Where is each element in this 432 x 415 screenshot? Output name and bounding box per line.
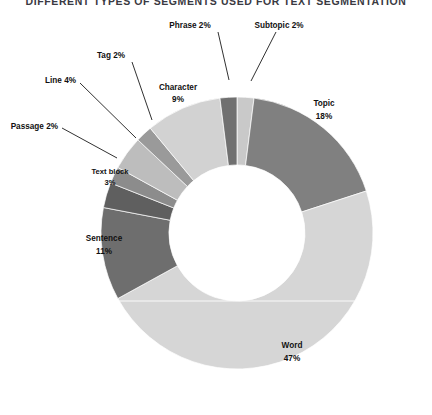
label-tag: Tag 2% bbox=[97, 51, 126, 60]
label-topic-pct: 18% bbox=[316, 112, 333, 121]
label-phrase: Phrase 2% bbox=[169, 21, 211, 30]
donut-slices bbox=[101, 97, 373, 369]
label-sentence-pct: 11% bbox=[96, 247, 113, 256]
label-sentence: Sentence bbox=[86, 234, 123, 243]
leader-tag bbox=[132, 62, 152, 120]
leader-subtopic bbox=[251, 32, 276, 81]
leader-line bbox=[80, 83, 136, 138]
label-subtopic: Subtopic 2% bbox=[254, 21, 304, 30]
label-word-pct: 47% bbox=[284, 354, 301, 363]
leader-phrase bbox=[218, 32, 229, 80]
label-character-pct: 9% bbox=[172, 95, 185, 104]
label-line: Line 4% bbox=[45, 76, 77, 85]
label-topic: Topic bbox=[313, 99, 335, 108]
label-text-block: Text block bbox=[92, 167, 130, 176]
leader-passage bbox=[62, 128, 117, 158]
label-passage: Passage 2% bbox=[11, 122, 59, 131]
donut-chart: Topic 18% Word 47% Sentence 11% Text blo… bbox=[0, 0, 432, 415]
slice-topic[interactable] bbox=[246, 98, 367, 212]
chart-page: DIFFERENT TYPES OF SEGMENTS USED FOR TEX… bbox=[0, 0, 432, 415]
label-word: Word bbox=[282, 341, 303, 350]
label-text-block-pct: 3% bbox=[105, 178, 116, 187]
label-character: Character bbox=[159, 83, 198, 92]
